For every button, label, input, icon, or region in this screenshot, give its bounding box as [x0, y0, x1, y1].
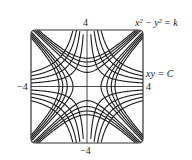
tick-left: −4	[17, 82, 28, 92]
curve	[98, 97, 143, 143]
tick-top: 4	[83, 18, 88, 28]
tick-right: 4	[146, 82, 151, 92]
legend-product: xy = C	[146, 69, 173, 79]
curve	[98, 30, 143, 76]
curve	[31, 30, 76, 76]
tick-bottom: −4	[80, 146, 91, 156]
legend-difference-of-squares: x² − y² = k	[135, 18, 178, 28]
curve	[31, 97, 76, 143]
